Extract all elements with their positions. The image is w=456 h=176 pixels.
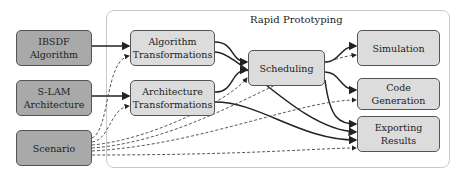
ibsdf-label: IBSDF Algorithm — [30, 35, 78, 61]
export-label: Exporting Results — [375, 121, 423, 147]
algo-label: Algorithm Transformations — [133, 35, 213, 61]
simulation-label: Simulation — [372, 42, 424, 55]
scenario-box: Scenario — [16, 130, 92, 166]
diagram: Rapid Prototyping IBSDF Algorith — [0, 0, 456, 176]
scenario-label: Scenario — [33, 142, 76, 155]
code-label: Code Generation — [372, 81, 426, 107]
algorithm-transformations-box: Algorithm Transformations — [130, 30, 215, 66]
scheduling-label: Scheduling — [259, 62, 313, 75]
exporting-results-box: Exporting Results — [357, 116, 440, 152]
architecture-transformations-box: Architecture Transformations — [130, 80, 215, 116]
code-generation-box: Code Generation — [357, 78, 440, 110]
slam-label: S-LAM Architecture — [24, 85, 85, 111]
slam-architecture-box: S-LAM Architecture — [16, 80, 92, 116]
scheduling-box: Scheduling — [248, 50, 325, 86]
simulation-box: Simulation — [357, 30, 440, 66]
ibsdf-algorithm-box: IBSDF Algorithm — [16, 30, 92, 66]
arch-label: Architecture Transformations — [133, 85, 213, 111]
